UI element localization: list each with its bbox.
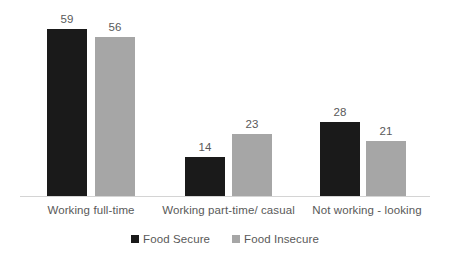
bar-value-label: 28 <box>320 106 360 119</box>
x-axis-label-not-working-looking: Not working - looking <box>297 203 437 218</box>
bar-value-label: 59 <box>47 13 87 26</box>
x-axis-label-working-full-time: Working full-time <box>21 203 161 218</box>
bar-food-secure-working-part-time-casual <box>185 157 225 197</box>
plot-area: 59 56 14 23 28 21 <box>0 0 450 197</box>
x-axis-line <box>20 196 430 197</box>
bar-chart: 59 56 14 23 28 21 Working full-time Work… <box>0 0 450 260</box>
square-marker-icon <box>131 235 139 243</box>
bar-value-label: 56 <box>95 21 135 34</box>
legend-item-food-secure: Food Secure <box>131 233 210 245</box>
bar-value-label: 23 <box>232 118 272 131</box>
bar-value-label: 14 <box>185 141 225 154</box>
legend-label: Food Insecure <box>244 233 319 245</box>
bar-food-insecure-not-working-looking <box>366 141 406 197</box>
bar-food-secure-not-working-looking <box>320 122 360 197</box>
legend-label: Food Secure <box>143 233 210 245</box>
square-marker-icon <box>232 235 240 243</box>
legend-item-food-insecure: Food Insecure <box>232 233 319 245</box>
bar-food-insecure-working-full-time <box>95 37 135 197</box>
x-axis-category-labels: Working full-time Working part-time/ cas… <box>0 203 450 221</box>
chart-legend: Food Secure Food Insecure <box>0 231 450 247</box>
x-axis-label-working-part-time-casual: Working part-time/ casual <box>152 203 305 218</box>
bar-value-label: 21 <box>366 125 406 138</box>
bar-food-secure-working-full-time <box>47 29 87 197</box>
bar-food-insecure-working-part-time-casual <box>232 134 272 197</box>
